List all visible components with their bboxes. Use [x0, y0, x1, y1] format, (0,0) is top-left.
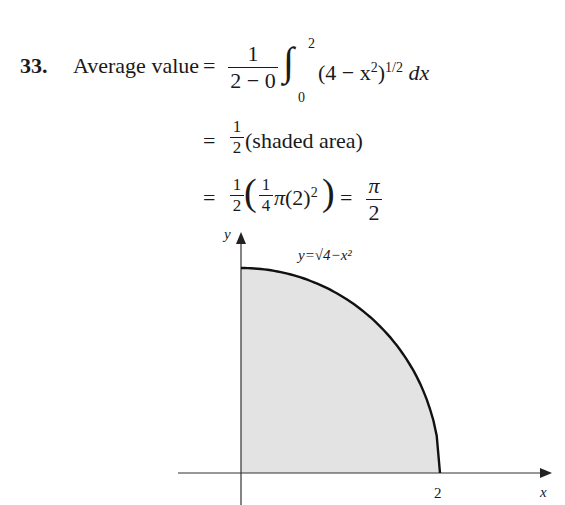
y-axis-label: y	[224, 226, 231, 243]
shaded-region	[241, 268, 440, 473]
x-tick-label-2: 2	[434, 485, 442, 502]
y-axis-arrow	[236, 232, 246, 244]
quarter-circle-figure	[0, 0, 565, 505]
curve-label: y=√4−x²	[298, 247, 352, 264]
x-axis-arrow	[540, 468, 552, 478]
x-axis-label: x	[540, 484, 547, 501]
